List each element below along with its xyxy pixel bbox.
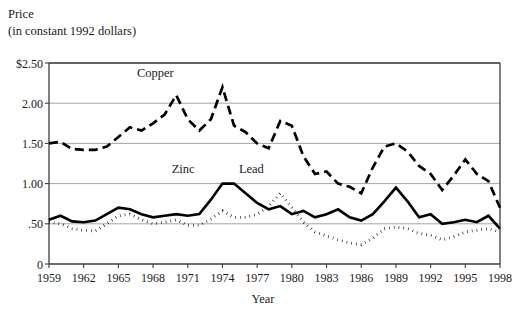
y-tick-label: $2.50 (16, 57, 43, 71)
y-tick-label: 1.50 (22, 137, 43, 151)
x-tick-label: 1962 (72, 271, 96, 285)
y-tick-label: .50 (28, 217, 43, 231)
x-tick-label: 1977 (245, 271, 269, 285)
data-series-group (49, 87, 500, 245)
x-tick-label: 1989 (384, 271, 408, 285)
x-tick-label: 1998 (488, 271, 512, 285)
x-axis-title: Year (251, 292, 275, 306)
x-tick-label: 1974 (210, 271, 234, 285)
axis-lines (49, 63, 500, 264)
series-label-copper: Copper (137, 66, 175, 80)
y-tick-label: 0 (37, 258, 43, 272)
chart-canvas: Price (in constant 1992 dollars) $2.502.… (0, 0, 526, 317)
series-line-copper (49, 87, 500, 208)
x-tick-label: 1986 (349, 271, 373, 285)
series-line-lead (49, 193, 500, 244)
y-tick-label: 2.00 (22, 97, 43, 111)
chart-subtitle: (in constant 1992 dollars) (8, 24, 136, 38)
x-tick-label: 1959 (37, 271, 61, 285)
y-tick-label: 1.00 (22, 177, 43, 191)
series-label-zinc: Zinc (172, 162, 195, 176)
x-tick-label: 1995 (453, 271, 477, 285)
y-axis-tick-labels: $2.502.001.501.00.500 (16, 57, 43, 272)
x-axis-tick-labels: 1959196219651968197119741977198019831986… (37, 271, 512, 285)
series-label-lead: Lead (239, 162, 265, 176)
x-tick-label: 1983 (315, 271, 339, 285)
x-tick-label: 1992 (419, 271, 443, 285)
chart-title: Price (8, 7, 34, 21)
x-tick-label: 1980 (280, 271, 304, 285)
x-tick-label: 1971 (176, 271, 200, 285)
gridlines (45, 63, 500, 264)
x-tick-label: 1965 (106, 271, 130, 285)
price-line-chart: Price (in constant 1992 dollars) $2.502.… (0, 0, 526, 317)
series-line-zinc (49, 184, 500, 229)
x-tick-label: 1968 (141, 271, 165, 285)
